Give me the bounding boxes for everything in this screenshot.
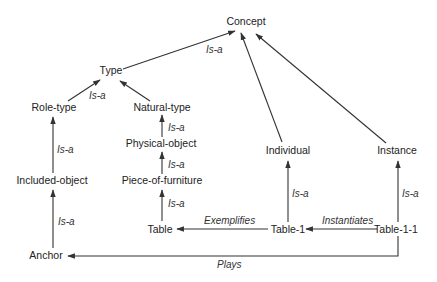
node-included-object: Included-object — [16, 174, 87, 186]
label-table-1-1-instance: Is-a — [402, 188, 419, 199]
edge-individual-to-concept — [241, 33, 282, 142]
label-type-concept: Is-a — [206, 44, 223, 55]
concept-diagram: Is-a Is-a Is-a Is-a Is-a Is-a Is-a Is-a … — [0, 0, 437, 282]
edge-instance-to-concept — [256, 34, 386, 143]
node-piece-of-furniture: Piece-of-furniture — [122, 174, 203, 186]
node-individual: Individual — [266, 144, 310, 156]
label-exemplifies: Exemplifies — [204, 215, 255, 226]
label-included-object-role-type: Is-a — [57, 144, 74, 155]
node-table-1: Table-1 — [271, 223, 306, 235]
node-role-type: Role-type — [32, 101, 77, 113]
edge-natural-type-to-type — [120, 81, 150, 101]
label-piece-of-furniture-physical-object: Is-a — [168, 159, 185, 170]
node-physical-object: Physical-object — [126, 137, 197, 149]
node-table-1-1: Table-1-1 — [374, 223, 418, 235]
label-table-piece-of-furniture: Is-a — [168, 198, 185, 209]
label-table-1-individual: Is-a — [292, 188, 309, 199]
label-plays: Plays — [217, 259, 241, 270]
node-type: Type — [100, 64, 123, 76]
label-role-type-type: Is-a — [89, 90, 106, 101]
label-instantiates: Instantiates — [322, 215, 373, 226]
node-table: Table — [147, 223, 172, 235]
label-physical-object-natural-type: Is-a — [168, 122, 185, 133]
node-natural-type: Natural-type — [133, 101, 190, 113]
edge-plays — [68, 236, 398, 256]
node-concept: Concept — [226, 15, 265, 27]
label-anchor-included-object: Is-a — [58, 216, 75, 227]
node-anchor: Anchor — [29, 249, 63, 261]
node-instance: Instance — [377, 144, 417, 156]
